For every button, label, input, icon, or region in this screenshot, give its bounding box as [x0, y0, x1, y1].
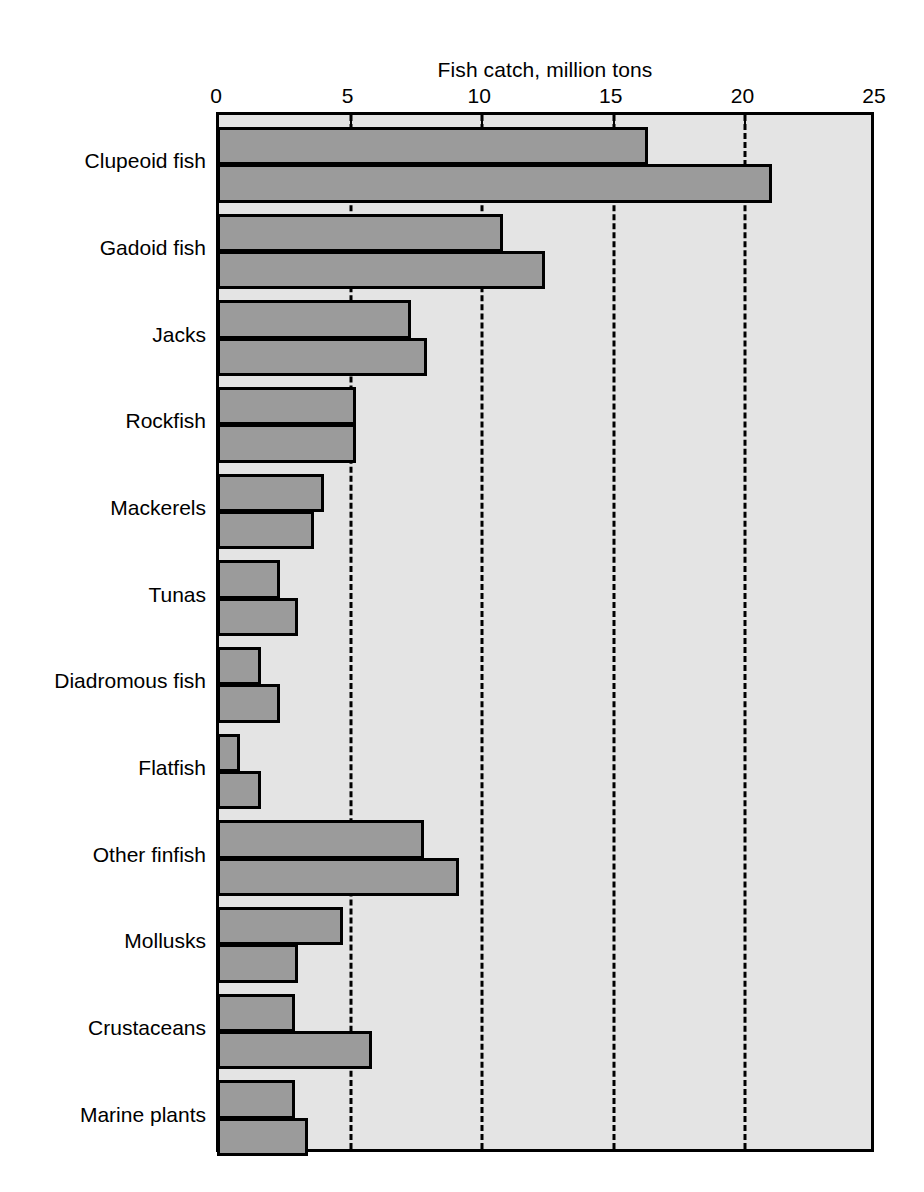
- category-label-marine-plants: Marine plants: [80, 1103, 206, 1127]
- plot-area: [216, 112, 874, 1152]
- x-tick-label-10: 10: [468, 84, 491, 108]
- bar-mackerels-1: [217, 474, 324, 512]
- bar-diadromous-fish-1: [217, 647, 261, 685]
- bar-rockfish-1: [217, 387, 356, 425]
- category-label-gadoid-fish: Gadoid fish: [100, 236, 206, 260]
- category-label-rockfish: Rockfish: [125, 409, 206, 433]
- gridline-15: [612, 115, 615, 1149]
- category-label-tunas: Tunas: [148, 583, 206, 607]
- bar-gadoid-fish-2: [217, 251, 545, 289]
- bar-jacks-2: [217, 338, 427, 376]
- chart-title: Fish catch, million tons: [216, 58, 874, 82]
- bar-crustaceans-1: [217, 994, 295, 1032]
- category-label-mollusks: Mollusks: [124, 929, 206, 953]
- plot-inner: [219, 115, 871, 1149]
- x-axis-tick-labels: 0510152025: [0, 84, 924, 110]
- bar-crustaceans-2: [217, 1031, 372, 1069]
- category-label-crustaceans: Crustaceans: [88, 1016, 206, 1040]
- bar-other-finfish-1: [217, 820, 424, 858]
- bar-clupeoid-fish-2: [217, 164, 772, 202]
- bar-rockfish-2: [217, 424, 356, 462]
- bar-jacks-1: [217, 300, 411, 338]
- y-axis-category-labels: Clupeoid fishGadoid fishJacksRockfishMac…: [0, 112, 206, 1152]
- bar-clupeoid-fish-1: [217, 127, 648, 165]
- category-label-clupeoid-fish: Clupeoid fish: [85, 149, 206, 173]
- x-tick-label-20: 20: [731, 84, 754, 108]
- bar-tunas-1: [217, 560, 280, 598]
- x-tick-label-5: 5: [342, 84, 354, 108]
- bar-diadromous-fish-2: [217, 684, 280, 722]
- bar-marine-plants-1: [217, 1080, 295, 1118]
- bar-tunas-2: [217, 598, 298, 636]
- bar-flatfish-1: [217, 734, 240, 772]
- category-label-diadromous-fish: Diadromous fish: [54, 669, 206, 693]
- gridline-20: [744, 115, 747, 1149]
- x-tick-label-25: 25: [862, 84, 885, 108]
- category-label-flatfish: Flatfish: [138, 756, 206, 780]
- x-tick-label-15: 15: [599, 84, 622, 108]
- x-tick-label-0: 0: [210, 84, 222, 108]
- category-label-mackerels: Mackerels: [110, 496, 206, 520]
- bar-gadoid-fish-1: [217, 214, 503, 252]
- bar-mollusks-1: [217, 907, 343, 945]
- bar-mackerels-2: [217, 511, 314, 549]
- fish-catch-bar-chart: Fish catch, million tons 0510152025 Clup…: [0, 0, 924, 1192]
- bar-flatfish-2: [217, 771, 261, 809]
- bar-mollusks-2: [217, 944, 298, 982]
- category-label-other-finfish: Other finfish: [93, 843, 206, 867]
- bar-marine-plants-2: [217, 1118, 308, 1156]
- bar-other-finfish-2: [217, 858, 459, 896]
- category-label-jacks: Jacks: [152, 323, 206, 347]
